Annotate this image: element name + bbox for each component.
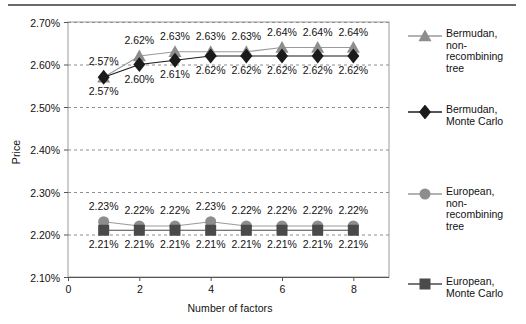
data-label-0-3: 2.63%	[196, 30, 226, 42]
legend-marker-triangle-icon	[408, 29, 442, 43]
x-axis-title: Number of factors	[145, 302, 315, 314]
data-label-0-7: 2.64%	[338, 26, 368, 38]
y-tick-label-4: 2.50%	[30, 102, 60, 114]
data-label-1-0: 2.57%	[89, 85, 119, 97]
marker-legend-1	[419, 105, 431, 119]
data-label-3-7: 2.21%	[338, 238, 368, 250]
legend-marker-circle-icon	[408, 187, 442, 201]
data-label-1-5: 2.62%	[267, 64, 297, 76]
data-label-0-4: 2.63%	[231, 30, 261, 42]
data-label-1-4: 2.62%	[231, 64, 261, 76]
marker-3-2	[170, 225, 181, 236]
marker-3-3	[205, 225, 216, 236]
data-label-3-4: 2.21%	[231, 238, 261, 250]
y-axis-title: Price	[10, 122, 22, 182]
data-label-3-6: 2.21%	[303, 238, 333, 250]
data-label-1-7: 2.62%	[338, 64, 368, 76]
legend-marker-diamond-icon	[408, 105, 442, 119]
marker-3-1	[134, 225, 145, 236]
marker-1-3	[205, 49, 217, 64]
data-label-1-2: 2.61%	[160, 68, 190, 80]
marker-1-0	[98, 70, 110, 85]
y-tick-label-0: 2.10%	[30, 272, 60, 284]
data-label-1-1: 2.60%	[124, 73, 154, 85]
data-label-0-1: 2.62%	[124, 34, 154, 46]
data-label-3-3: 2.21%	[196, 238, 226, 250]
chart-legend: Bermudan, non- recombining treeBermudan,…	[408, 14, 524, 314]
data-label-3-1: 2.21%	[124, 238, 154, 250]
series-3	[98, 225, 359, 236]
data-label-3-0: 2.21%	[89, 238, 119, 250]
data-label-2-5: 2.22%	[267, 204, 297, 216]
data-label-3-5: 2.21%	[267, 238, 297, 250]
y-tick-label-5: 2.60%	[30, 59, 60, 71]
data-label-1-3: 2.62%	[196, 64, 226, 76]
marker-3-7	[348, 225, 359, 236]
legend-label-3: European, Monte Carlo	[442, 276, 503, 299]
data-label-2-2: 2.22%	[160, 204, 190, 216]
legend-label-2: European, non- recombining tree	[442, 186, 503, 232]
x-tick-label-4: 8	[351, 283, 357, 295]
legend-marker-square-icon	[408, 277, 442, 291]
data-label-2-0: 2.23%	[89, 200, 119, 212]
data-label-3-2: 2.21%	[160, 238, 190, 250]
marker-3-6	[312, 225, 323, 236]
marker-3-5	[277, 225, 288, 236]
legend-entry-2[interactable]: European, non- recombining tree	[408, 186, 524, 232]
legend-entry-1[interactable]: Bermudan, Monte Carlo	[408, 104, 524, 127]
data-label-0-0: 2.57%	[89, 55, 119, 67]
x-tick-label-1: 2	[137, 283, 143, 295]
data-label-0-6: 2.64%	[303, 26, 333, 38]
marker-3-4	[241, 225, 252, 236]
legend-entry-0[interactable]: Bermudan, non- recombining tree	[408, 28, 524, 74]
y-tick-label-1: 2.20%	[30, 229, 60, 241]
data-label-2-6: 2.22%	[303, 204, 333, 216]
data-label-2-1: 2.22%	[124, 204, 154, 216]
data-label-0-2: 2.63%	[160, 30, 190, 42]
marker-3-0	[98, 225, 109, 236]
data-label-2-3: 2.23%	[196, 200, 226, 212]
y-tick-label-2: 2.30%	[30, 187, 60, 199]
x-tick-label-3: 6	[280, 283, 286, 295]
marker-legend-2	[420, 189, 431, 200]
y-tick-label-6: 2.70%	[30, 17, 60, 29]
figure: 2.10%2.20%2.30%2.40%2.50%2.60%2.70%02468…	[0, 0, 526, 324]
data-label-0-5: 2.64%	[267, 26, 297, 38]
data-label-2-4: 2.22%	[231, 204, 261, 216]
marker-legend-3	[420, 279, 431, 290]
legend-label-0: Bermudan, non- recombining tree	[442, 28, 503, 74]
data-label-1-6: 2.62%	[303, 64, 333, 76]
data-label-2-7: 2.22%	[338, 204, 368, 216]
legend-entry-3[interactable]: European, Monte Carlo	[408, 276, 524, 299]
x-tick-label-2: 4	[208, 283, 214, 295]
y-tick-label-3: 2.40%	[30, 144, 60, 156]
x-tick-label-0: 0	[66, 283, 72, 295]
legend-label-1: Bermudan, Monte Carlo	[442, 104, 503, 127]
